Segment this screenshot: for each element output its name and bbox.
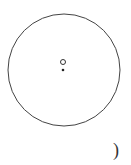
center-point: [62, 69, 65, 72]
open-point: [61, 60, 66, 65]
closing-parenthesis: ): [113, 140, 119, 160]
circle-diagram: [0, 0, 131, 165]
